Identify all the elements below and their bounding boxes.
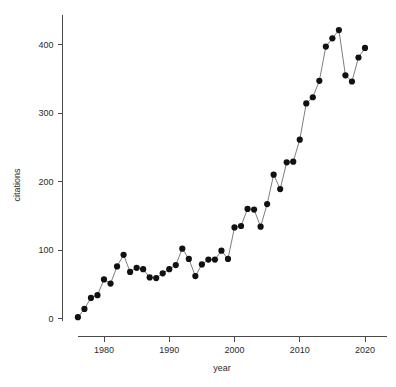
data-point: [212, 256, 218, 262]
data-point: [81, 306, 87, 312]
data-point: [342, 72, 348, 78]
data-point: [362, 45, 368, 51]
data-point: [101, 276, 107, 282]
data-point: [271, 172, 277, 178]
data-point: [107, 280, 113, 286]
data-point: [355, 54, 361, 60]
data-point: [258, 224, 264, 230]
data-point: [88, 295, 94, 301]
data-point: [244, 206, 250, 212]
data-point: [199, 261, 205, 267]
data-point: [94, 292, 100, 298]
x-axis-tick-label: 2000: [224, 345, 244, 355]
citations-by-year-line-chart: 0100200300400 19801990200020102020 citat…: [0, 0, 396, 387]
data-point: [166, 266, 172, 272]
data-point: [140, 266, 146, 272]
x-axis-tick-label: 2020: [355, 345, 375, 355]
y-axis-tick-label: 200: [38, 177, 53, 187]
data-point: [323, 43, 329, 49]
data-point: [179, 246, 185, 252]
data-point: [251, 206, 257, 212]
data-point: [160, 270, 166, 276]
chart-background: [0, 0, 396, 387]
data-point: [329, 35, 335, 41]
data-point: [297, 137, 303, 143]
x-axis-tick-label: 1980: [94, 345, 114, 355]
data-point: [277, 186, 283, 192]
data-point: [147, 274, 153, 280]
x-axis-tick-label: 1990: [159, 345, 179, 355]
x-axis-title: year: [213, 363, 231, 373]
data-point: [192, 273, 198, 279]
y-axis-tick-label: 300: [38, 108, 53, 118]
data-point: [316, 78, 322, 84]
data-point: [134, 265, 140, 271]
data-point: [114, 263, 120, 269]
y-axis-tick-label: 0: [48, 314, 53, 324]
data-point: [349, 78, 355, 84]
data-point: [186, 256, 192, 262]
data-point: [284, 159, 290, 165]
data-point: [264, 201, 270, 207]
y-axis-tick-label: 100: [38, 245, 53, 255]
chart-plot-area: 0100200300400 19801990200020102020 citat…: [0, 0, 396, 387]
data-point: [303, 100, 309, 106]
data-point: [218, 248, 224, 254]
data-point: [173, 262, 179, 268]
data-point: [225, 256, 231, 262]
data-point: [153, 275, 159, 281]
data-point: [231, 224, 237, 230]
data-point: [120, 252, 126, 258]
data-point: [127, 269, 133, 275]
data-point: [238, 223, 244, 229]
y-axis-tick-label: 400: [38, 40, 53, 50]
data-point: [310, 94, 316, 100]
data-point: [75, 314, 81, 320]
x-axis-tick-label: 2010: [290, 345, 310, 355]
data-point: [205, 256, 211, 262]
data-point: [290, 159, 296, 165]
y-axis-title: citations: [12, 168, 22, 202]
data-point: [336, 27, 342, 33]
